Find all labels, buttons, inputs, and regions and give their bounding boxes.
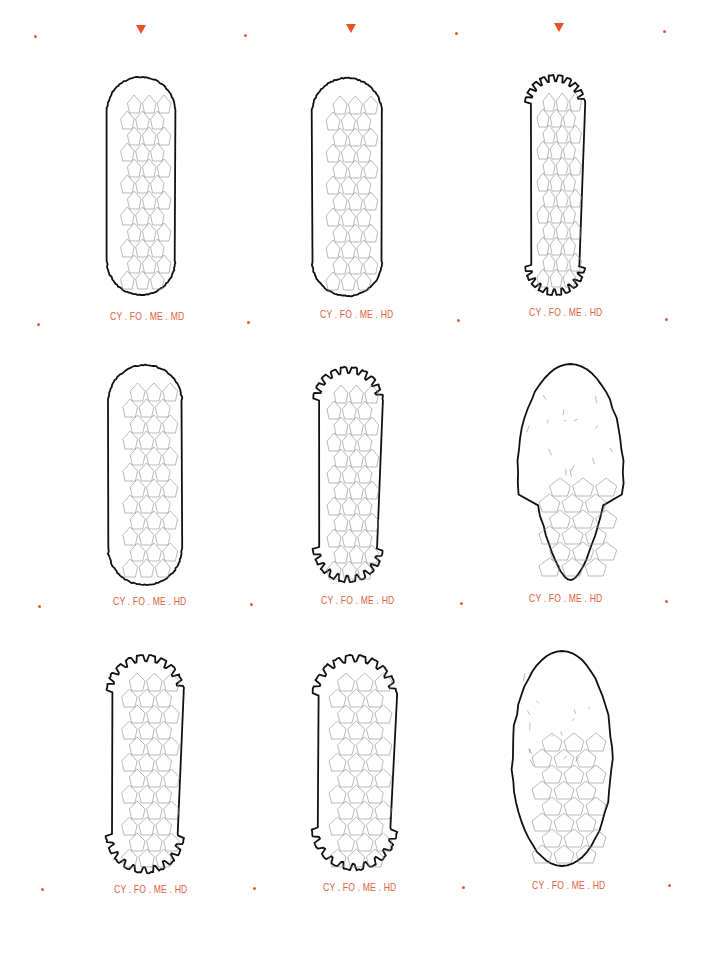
registration-dot xyxy=(250,603,253,606)
registration-dot xyxy=(247,321,250,324)
specimen-label: CY . FO . ME . HD xyxy=(320,308,393,320)
specimen-drawing xyxy=(312,78,382,296)
specimen-label: CY . FO . ME . HD xyxy=(532,879,605,891)
specimen-outline xyxy=(108,365,182,585)
specimen-drawing xyxy=(512,651,612,866)
specimen-drawing xyxy=(525,75,585,295)
registration-dot xyxy=(38,605,41,608)
specimen-label: CY . FO . ME . HD xyxy=(529,592,602,604)
specimen-label: CY . FO . ME . HD xyxy=(113,595,186,607)
specimen-label: CY . FO . ME . HD xyxy=(323,881,396,893)
specimen-drawing xyxy=(518,364,623,580)
registration-dot xyxy=(34,35,37,38)
specimen-drawing xyxy=(107,77,175,295)
registration-dot xyxy=(665,600,668,603)
registration-dot xyxy=(253,887,256,890)
registration-dot xyxy=(668,884,671,887)
registration-dot xyxy=(455,32,458,35)
specimen-drawing xyxy=(312,655,397,870)
specimen-sheet: CY . FO . ME . MDCY . FO . ME . HDCY . F… xyxy=(0,0,715,954)
specimen-outline xyxy=(512,651,613,866)
specimen-label: CY . FO . ME . HD xyxy=(321,594,394,606)
registration-dot xyxy=(663,30,666,33)
specimen-outline xyxy=(107,77,176,295)
registration-dot xyxy=(462,886,465,889)
registration-dot xyxy=(460,602,463,605)
specimen-outline xyxy=(313,367,383,583)
registration-dot xyxy=(244,34,247,37)
specimen-drawing xyxy=(106,655,184,873)
down-triangle-icon xyxy=(136,25,146,34)
registration-dot xyxy=(457,319,460,322)
down-triangle-icon xyxy=(346,24,356,33)
specimen-drawing xyxy=(313,367,383,582)
specimen-label: CY . FO . ME . HD xyxy=(529,306,602,318)
down-triangle-icon xyxy=(554,23,564,32)
registration-dot xyxy=(37,323,40,326)
registration-dot xyxy=(665,318,668,321)
specimen-label: CY . FO . ME . MD xyxy=(110,310,184,322)
specimen-outline xyxy=(312,655,398,871)
specimen-drawing xyxy=(108,365,182,585)
specimen-label: CY . FO . ME . HD xyxy=(114,883,187,895)
registration-dot xyxy=(41,888,44,891)
